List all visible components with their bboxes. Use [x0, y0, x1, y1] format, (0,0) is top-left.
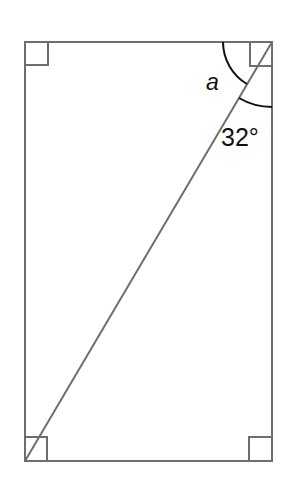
angle-arc-a: [223, 42, 247, 84]
right-angle-marker-bottom-right: [249, 437, 272, 461]
right-angle-marker-top-left: [25, 42, 48, 65]
label-angle-32: 32°: [221, 123, 259, 151]
geometry-diagram: a 32°: [0, 0, 290, 483]
label-angle-a: a: [206, 69, 219, 95]
diagonal: [25, 42, 272, 461]
angle-arc-32: [239, 98, 272, 107]
